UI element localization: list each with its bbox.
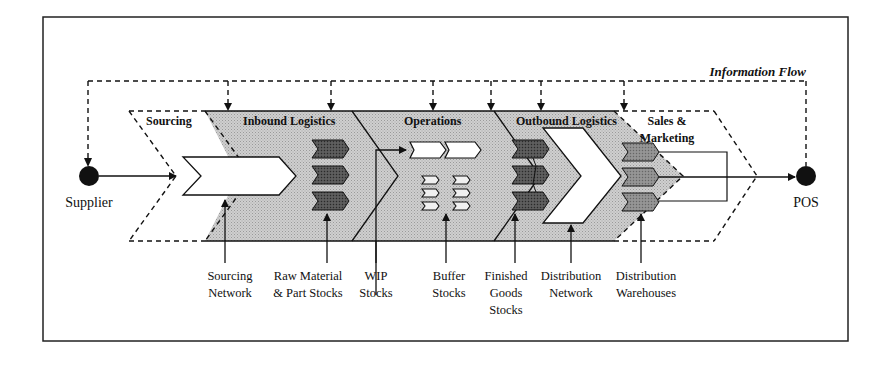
- callout-dist-network-l1: Distribution: [541, 269, 602, 283]
- supplier-node-icon: [79, 166, 99, 186]
- callout-raw-material-l2: & Part Stocks: [273, 286, 343, 300]
- stage-label-sourcing: Sourcing: [146, 114, 192, 128]
- raw-material-stocks: [312, 140, 349, 210]
- stage-label-sales-line2: Marketing: [640, 131, 695, 145]
- stage-label-sales-line1: Sales &: [648, 114, 687, 128]
- callout-finished-l2: Goods: [490, 286, 523, 300]
- callout-finished-l3: Stocks: [489, 303, 522, 317]
- distribution-warehouses-stocks: [622, 143, 659, 211]
- callout-finished-l1: Finished: [484, 269, 528, 283]
- finished-goods-stocks: [512, 140, 549, 210]
- callout-wip-l2: Stocks: [359, 286, 392, 300]
- sourcing-network-chevron: [183, 157, 296, 195]
- callout-buffer-l2: Stocks: [432, 286, 465, 300]
- pos-label: POS: [793, 195, 819, 210]
- stage-label-outbound: Outbound Logistics: [516, 114, 617, 128]
- callout-dist-warehouses-l2: Warehouses: [616, 286, 676, 300]
- callout-sourcing-network-l1: Sourcing: [207, 269, 253, 283]
- callout-dist-warehouses-l1: Distribution: [616, 269, 677, 283]
- supplier-label: Supplier: [65, 195, 113, 210]
- stage-label-operations: Operations: [404, 114, 462, 128]
- supply-chain-diagram: Information Flow Supplier POS: [0, 0, 886, 366]
- callout-wip-l1: WIP: [365, 269, 388, 283]
- callout-buffer-l1: Buffer: [433, 269, 466, 283]
- callout-dist-network-l2: Network: [549, 286, 593, 300]
- information-flow-label: Information Flow: [709, 64, 807, 79]
- callout-labels: Sourcing Network Raw Material & Part Sto…: [207, 269, 677, 317]
- pos-node-icon: [796, 166, 816, 186]
- callout-sourcing-network-l2: Network: [208, 286, 252, 300]
- callout-raw-material-l1: Raw Material: [274, 269, 343, 283]
- stage-label-inbound: Inbound Logistics: [243, 114, 336, 128]
